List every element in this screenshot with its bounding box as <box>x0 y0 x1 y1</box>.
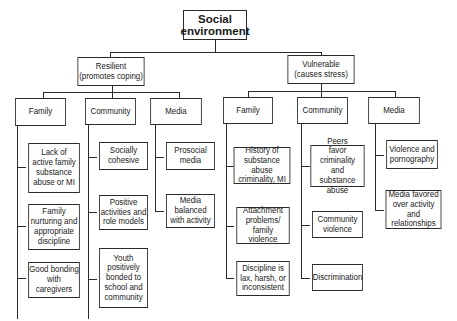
leaf-label: Lack of active family substance abuse or… <box>32 148 75 187</box>
leaf-label: Media balanced with activity <box>170 196 210 225</box>
connector <box>226 123 227 278</box>
connector <box>375 155 384 156</box>
connector <box>248 91 396 92</box>
connector <box>17 125 18 319</box>
leaf-node: Peers favor criminality and substance ab… <box>310 145 364 187</box>
category-label: Family <box>29 107 52 117</box>
leaf-label: Media favored over activity and relation… <box>386 190 440 229</box>
leaf-node: History of substance abuse criminality, … <box>234 147 291 184</box>
leaf-node: Media favored over activity and relation… <box>386 190 442 229</box>
category-vulnerable-family: Family <box>223 97 273 124</box>
leaf-label: Youth positively bonded to school and co… <box>104 254 142 303</box>
connector <box>375 123 376 210</box>
leaf-label: Violence and pornography <box>389 145 435 165</box>
category-resilient-community: Community <box>85 98 136 125</box>
leaf-node: Youth positively bonded to school and co… <box>99 248 148 308</box>
connector <box>112 85 113 92</box>
root-label: Social environment <box>181 13 250 38</box>
leaf-node: Attachment problems/ family violence <box>236 207 289 244</box>
connector <box>88 157 97 158</box>
leaf-label: Socially cohesive <box>108 146 139 166</box>
leaf-label: History of substance abuse criminality, … <box>234 146 289 185</box>
leaf-node: Family nurturing and appropriate discipl… <box>28 204 80 250</box>
branch-resilient: Resilient (promotes coping) <box>77 57 144 86</box>
leaf-label: Discipline is lax, harsh, or inconsisten… <box>240 264 286 293</box>
branch-label: Vulnerable (causes stress) <box>294 60 348 80</box>
connector <box>301 123 302 279</box>
leaf-label: Positive activities and role models <box>101 198 147 227</box>
leaf-node: Violence and pornography <box>386 140 438 169</box>
leaf-label: Community violence <box>318 215 358 235</box>
leaf-label: Attachment problems/ family violence <box>237 206 289 245</box>
leaf-node: Community violence <box>312 211 363 238</box>
category-label: Media <box>165 107 187 117</box>
leaf-label: Discrimination <box>313 273 363 283</box>
leaf-label: Good bonding with caregivers <box>29 265 79 294</box>
category-label: Media <box>383 106 405 116</box>
connector <box>301 278 310 279</box>
leaf-node: Prosocial media <box>166 142 215 170</box>
category-resilient-family: Family <box>15 98 66 126</box>
root-node: Social environment <box>183 10 247 40</box>
connector <box>321 83 322 91</box>
leaf-label: Family nurturing and appropriate discipl… <box>31 207 78 246</box>
category-label: Community <box>303 106 343 116</box>
connector <box>155 211 164 212</box>
connector <box>17 278 26 279</box>
leaf-label: Peers favor criminality and substance ab… <box>311 137 363 196</box>
leaf-label: Prosocial media <box>174 146 207 166</box>
connector <box>226 278 234 279</box>
connector <box>110 52 322 53</box>
leaf-node: Lack of active family substance abuse or… <box>28 143 80 193</box>
connector <box>88 279 97 280</box>
category-label: Family <box>236 106 259 116</box>
category-label: Community <box>91 107 131 117</box>
connector <box>155 124 156 212</box>
leaf-node: Positive activities and role models <box>99 195 148 230</box>
category-resilient-media: Media <box>150 98 202 125</box>
connector <box>301 166 310 167</box>
connector <box>375 210 384 211</box>
leaf-node: Discrimination <box>312 264 363 291</box>
category-vulnerable-media: Media <box>368 97 420 124</box>
connector <box>88 212 97 213</box>
leaf-node: Socially cohesive <box>99 142 148 170</box>
branch-vulnerable: Vulnerable (causes stress) <box>287 55 354 84</box>
leaf-node: Good bonding with caregivers <box>28 262 80 298</box>
connector <box>215 39 216 52</box>
leaf-node: Media balanced with activity <box>166 194 215 228</box>
connector <box>17 167 26 168</box>
connector <box>88 124 89 319</box>
leaf-node: Discipline is lax, harsh, or inconsisten… <box>236 261 289 296</box>
category-vulnerable-community: Community <box>297 97 348 124</box>
branch-label: Resilient (promotes coping) <box>79 62 143 82</box>
connector <box>226 226 234 227</box>
connector <box>301 225 310 226</box>
connector <box>155 157 164 158</box>
connector <box>17 226 26 227</box>
